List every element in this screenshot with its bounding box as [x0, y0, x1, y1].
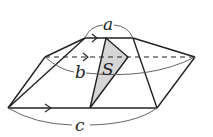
- label-b: b: [75, 62, 86, 82]
- label-a: a: [103, 14, 113, 34]
- label-s: S: [102, 59, 114, 79]
- label-c: c: [75, 115, 85, 135]
- diagram-canvas: a b S c: [0, 0, 213, 137]
